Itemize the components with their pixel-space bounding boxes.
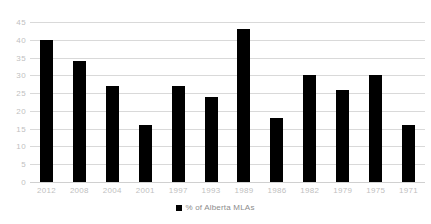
y-axis-tick-label: 15 (16, 124, 26, 133)
y-axis-tick-label: 30 (16, 71, 26, 80)
bar-slot (326, 22, 359, 182)
bar[interactable] (336, 90, 349, 182)
bar-slot (260, 22, 293, 182)
x-axis-tick-label: 2012 (30, 186, 63, 195)
bar-slot (96, 22, 129, 182)
gridline (30, 182, 425, 183)
y-axis-tick-label: 35 (16, 53, 26, 62)
x-axis-tick-label: 1989 (228, 186, 261, 195)
bar[interactable] (40, 40, 53, 182)
bar[interactable] (402, 125, 415, 182)
x-axis-tick-label: 1979 (326, 186, 359, 195)
x-axis-tick-label: 1986 (260, 186, 293, 195)
y-axis-tick-label: 25 (16, 89, 26, 98)
bar-slot (359, 22, 392, 182)
bar[interactable] (205, 97, 218, 182)
bar[interactable] (73, 61, 86, 182)
bar[interactable] (369, 75, 382, 182)
x-axis-tick-label: 1975 (359, 186, 392, 195)
bar-slot (129, 22, 162, 182)
x-axis-tick-label: 1993 (195, 186, 228, 195)
y-axis-tick-label: 40 (16, 35, 26, 44)
bar-slot (228, 22, 261, 182)
x-axis-tick-label: 2008 (63, 186, 96, 195)
x-axis-tick-label: 2001 (129, 186, 162, 195)
bar[interactable] (172, 86, 185, 182)
y-axis: 051015202530354045 (0, 22, 26, 182)
bar[interactable] (237, 29, 250, 182)
legend-square-marker (176, 205, 182, 211)
x-axis: 2012200820042001199719931989198619821979… (30, 186, 425, 202)
y-axis-tick-label: 45 (16, 18, 26, 27)
bar-slot (162, 22, 195, 182)
y-axis-tick-label: 10 (16, 142, 26, 151)
chart-legend: % of Alberta MLAs (0, 203, 431, 212)
bar-slot (63, 22, 96, 182)
plot-area (30, 22, 425, 182)
y-axis-tick-label: 0 (21, 178, 26, 187)
legend-label: % of Alberta MLAs (185, 203, 254, 212)
x-axis-tick-label: 1997 (162, 186, 195, 195)
bar[interactable] (270, 118, 283, 182)
bar-slot (30, 22, 63, 182)
y-axis-tick-label: 20 (16, 106, 26, 115)
bar[interactable] (106, 86, 119, 182)
bar-chart: 051015202530354045 201220082004200119971… (0, 0, 431, 224)
bar[interactable] (303, 75, 316, 182)
bar-slot (293, 22, 326, 182)
bar-series (30, 22, 425, 182)
x-axis-tick-label: 1982 (293, 186, 326, 195)
bar-slot (195, 22, 228, 182)
bar-slot (392, 22, 425, 182)
bar[interactable] (139, 125, 152, 182)
x-axis-tick-label: 2004 (96, 186, 129, 195)
y-axis-tick-label: 5 (21, 160, 26, 169)
x-axis-tick-label: 1971 (392, 186, 425, 195)
